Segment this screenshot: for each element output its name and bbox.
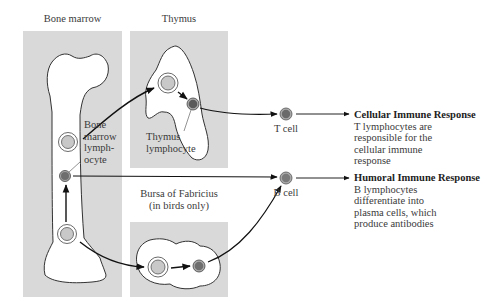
cellular-response-heading: Cellular Immune Response bbox=[354, 109, 476, 121]
thymus-stem-cell bbox=[158, 73, 178, 93]
b-cell-label: B cell bbox=[266, 187, 306, 199]
bone-marrow-stem-cell-upper bbox=[59, 133, 78, 152]
bursa-title: Bursa of Fabricius (in birds only) bbox=[130, 188, 228, 211]
cellular-response-block: Cellular Immune Response T lymphocytes a… bbox=[354, 109, 476, 167]
bone-marrow-stem-cell-lower bbox=[58, 225, 77, 244]
bone-marrow-lymphocyte bbox=[60, 171, 71, 182]
bone-marrow-title: Bone marrow bbox=[23, 13, 122, 25]
humoral-response-heading: Humoral Immune Response bbox=[354, 172, 480, 184]
bursa-stem-cell bbox=[148, 257, 168, 277]
bursa-lymphocyte bbox=[193, 260, 205, 272]
t-cell bbox=[280, 108, 292, 120]
t-cell-label: T cell bbox=[266, 123, 306, 135]
thymus-lymphocyte-label: Thymus lymphocyte bbox=[146, 131, 196, 154]
thymus-lymphocyte bbox=[187, 98, 199, 110]
bone-marrow-lymphocyte-label: Bone marrow lymph- ocyte bbox=[84, 119, 117, 165]
humoral-response-block: Humoral Immune Response B lymphocytes di… bbox=[354, 172, 480, 230]
bursa-title-line1: Bursa of Fabricius bbox=[130, 188, 228, 200]
bursa-title-line2: (in birds only) bbox=[130, 200, 228, 212]
thymus-title: Thymus bbox=[130, 13, 228, 25]
b-cell bbox=[280, 172, 292, 184]
